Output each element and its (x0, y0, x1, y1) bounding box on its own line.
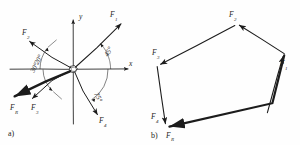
force-diagram-figure: y x F 1 F 2 F 3 (0, 0, 300, 145)
x-axis-label: x (128, 59, 133, 68)
y-axis-label: y (78, 12, 83, 21)
figure-background (0, 0, 300, 145)
polygon-vector-fr-label-sub: R (170, 137, 174, 142)
polygon-vector-f1-label-sub: 1 (285, 66, 288, 71)
vector-fr-label-sub: R (14, 110, 18, 115)
panel-a-label: a) (8, 129, 15, 138)
panel-b-label: b) (151, 131, 158, 140)
vector-f1-label-sub: 1 (115, 17, 118, 22)
